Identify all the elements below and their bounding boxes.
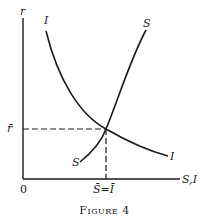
savings-curve-top-label: S [143, 18, 151, 29]
equilibrium-r-label: r̄ [7, 123, 12, 134]
investment-curve-bottom-label: I [170, 151, 174, 162]
investment-curve-top-label: I [44, 15, 48, 26]
savings-curve [80, 30, 146, 162]
origin-label: 0 [20, 184, 27, 195]
investment-curve [46, 31, 168, 156]
equilibrium-si-label: S̄=Ī [93, 184, 114, 195]
figure-caption: Figure 4 [0, 204, 209, 217]
x-axis-label: S,I [182, 174, 197, 185]
savings-curve-bottom-label: S [72, 157, 80, 168]
y-axis-label: r [20, 6, 25, 17]
